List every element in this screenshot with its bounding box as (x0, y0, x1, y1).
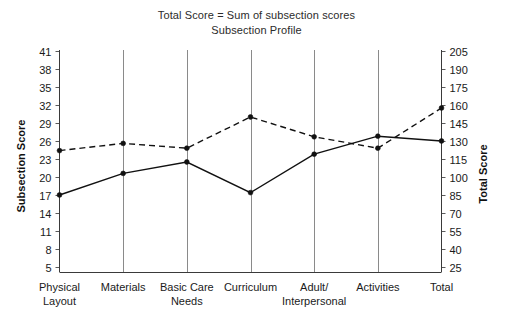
data-point-marker (248, 190, 253, 195)
y-axis-left-tick-label: 17 (39, 190, 51, 202)
y-axis-right-tick-label: 115 (450, 154, 468, 166)
data-point-marker (312, 152, 317, 157)
gridlines (124, 50, 379, 272)
x-axis-category-label: Interpersonal (282, 295, 346, 307)
axis-lines (60, 50, 442, 273)
data-point-marker (375, 134, 380, 139)
y-axis-left-tick-label: 23 (39, 154, 51, 166)
data-series (57, 106, 444, 198)
y-axis-right-tick-label: 25 (450, 262, 462, 274)
y-axis-left-tick-label: 41 (39, 46, 51, 58)
data-point-marker (121, 141, 126, 146)
axis-ticks (56, 52, 446, 268)
x-axis-category-label: Activities (356, 281, 400, 293)
x-axis-category-label: Adult/ (300, 281, 329, 293)
x-axis-category-label: Materials (101, 281, 146, 293)
y-axis-left-tick-label: 32 (39, 100, 51, 112)
y-axis-left-tick-label: 35 (39, 82, 51, 94)
plot-area: 413835322926232017141185 205190175160145… (0, 0, 513, 327)
data-point-marker (312, 134, 317, 139)
x-axis-category-label: Physical (39, 281, 80, 293)
y-axis-right-tick-labels: 2051901751601451301151008570554025 (450, 46, 468, 274)
y-axis-left-tick-label: 38 (39, 64, 51, 76)
y-axis-right-tick-label: 55 (450, 226, 462, 238)
x-axis-category-label: Total (430, 281, 453, 293)
data-point-marker (121, 171, 126, 176)
chart-container: Total Score = Sum of subsection scores S… (0, 0, 513, 327)
y-axis-right-tick-label: 85 (450, 190, 462, 202)
x-axis-category-label: Layout (43, 295, 76, 307)
x-axis-category-label: Basic Care (160, 281, 214, 293)
y-axis-right-tick-label: 160 (450, 100, 468, 112)
data-point-marker (57, 148, 62, 153)
data-point-marker (57, 193, 62, 198)
y-axis-left-tick-label: 11 (40, 226, 51, 238)
x-axis-category-label: Needs (171, 295, 203, 307)
y-axis-left-tick-label: 5 (45, 262, 51, 274)
y-axis-right-tick-label: 175 (450, 82, 468, 94)
x-axis-category-labels: PhysicalLayoutMaterialsBasic CareNeedsCu… (39, 281, 453, 307)
data-point-marker (375, 146, 380, 151)
y-axis-right-tick-label: 70 (450, 208, 462, 220)
data-point-marker (439, 139, 444, 144)
y-axis-right-tick-label: 145 (450, 118, 468, 130)
data-point-marker (439, 106, 444, 111)
y-axis-right-tick-label: 190 (450, 64, 468, 76)
y-axis-right-tick-label: 40 (450, 244, 462, 256)
y-axis-left-tick-label: 14 (39, 208, 51, 220)
x-axis-category-label: Curriculum (224, 281, 277, 293)
y-axis-left-tick-label: 29 (39, 118, 51, 130)
y-axis-left-tick-label: 20 (39, 172, 51, 184)
y-axis-left-tick-label: 8 (45, 244, 51, 256)
y-axis-right-tick-label: 205 (450, 46, 468, 58)
y-axis-left-tick-labels: 413835322926232017141185 (39, 46, 51, 274)
data-point-marker (248, 115, 253, 120)
y-axis-left-tick-label: 26 (39, 136, 51, 148)
data-point-marker (184, 160, 189, 165)
y-axis-right-tick-label: 100 (450, 172, 468, 184)
series-line (60, 136, 442, 195)
y-axis-right-tick-label: 130 (450, 136, 468, 148)
data-point-marker (184, 146, 189, 151)
